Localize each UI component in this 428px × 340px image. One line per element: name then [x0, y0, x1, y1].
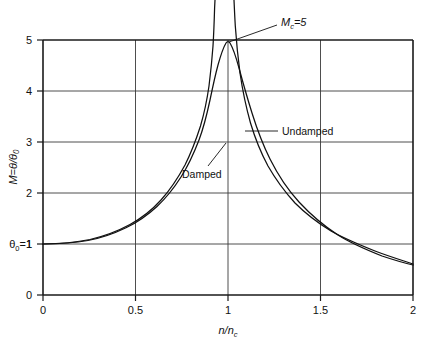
- chart-page: 0 1 2 3 4 5 θ0=1 0 0.5 1 1.5 2 n/nc M=θ/…: [0, 0, 428, 340]
- ytick-label-3: 3: [26, 136, 32, 148]
- ytick-label-0: 0: [26, 289, 32, 301]
- theta-equals-one: =1: [19, 238, 32, 250]
- ytick-label-4: 4: [26, 85, 32, 97]
- xtick-label-2: 2: [410, 304, 416, 316]
- resonance-magnification-chart: 0 1 2 3 4 5 θ0=1 0 0.5 1 1.5 2 n/nc M=θ/…: [0, 0, 428, 340]
- mc-value: =5: [294, 16, 307, 28]
- annotation-damped-label: Damped: [182, 168, 222, 180]
- xtick-label-1-5: 1.5: [313, 304, 328, 316]
- ytick-label-5: 5: [26, 34, 32, 46]
- ytick-label-2: 2: [26, 187, 32, 199]
- xtick-label-1: 1: [225, 304, 231, 316]
- y-axis-title-rest: =θ/θ₀: [7, 149, 19, 175]
- xtick-label-0-5: 0.5: [128, 304, 143, 316]
- x-axis-title-sub: c: [234, 330, 238, 339]
- annotation-undamped-label: Undamped: [282, 125, 334, 137]
- x-axis-title-main: n/n: [218, 324, 233, 336]
- y-axis-title: M=θ/θ₀: [7, 149, 19, 185]
- xtick-label-0: 0: [40, 304, 46, 316]
